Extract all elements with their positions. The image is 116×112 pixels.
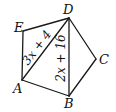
vertex-label-A: A [12, 81, 22, 96]
segment-label-DB: 2x + 16 [54, 34, 68, 83]
vertex-label-B: B [63, 96, 74, 111]
vertex-label-E: E [13, 20, 24, 35]
segment-label-AD: 3x + 4 [19, 28, 54, 68]
geometry-figure: D E A B C 3x + 4 2x + 16 [0, 0, 116, 112]
edge-ED [23, 18, 69, 31]
edge-DC [69, 18, 96, 59]
vertex-label-D: D [62, 2, 74, 17]
vertex-label-C: C [99, 52, 109, 67]
edge-CB [69, 59, 96, 96]
